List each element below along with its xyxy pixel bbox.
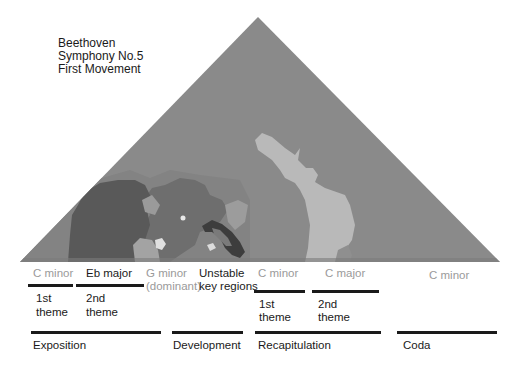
key-label-c-major: C major (325, 266, 365, 280)
section-label-recapitulation: Recapitulation (258, 338, 331, 352)
theme-label-1st-recap: 1st (259, 297, 274, 311)
theme-label-2nd-recap-theme: theme (318, 310, 350, 324)
section-bar-exposition (31, 331, 161, 334)
key-label-eb-major: Eb major (86, 266, 132, 280)
section-bar-development (172, 331, 243, 334)
theme-label-2nd: 2nd (86, 291, 105, 305)
section-bar-recapitulation (255, 331, 381, 334)
section-label-exposition: Exposition (33, 338, 86, 352)
key-label-g-minor: G minor (146, 266, 187, 280)
section-bar-coda (397, 331, 497, 334)
theme-bar-1st-recap (254, 290, 305, 293)
theme-label-1st-theme: theme (36, 305, 68, 319)
highlight-dot (181, 216, 186, 221)
key-label-unstable: Unstable (199, 266, 244, 280)
key-label-key-regions: key regions (199, 279, 258, 293)
theme-label-1st-recap-theme: theme (259, 310, 291, 324)
key-label-c-minor-coda: C minor (429, 268, 469, 282)
theme-label-2nd-recap: 2nd (318, 297, 337, 311)
section-label-coda: Coda (403, 338, 431, 352)
section-label-development: Development (173, 338, 241, 352)
base-speckle (20, 258, 500, 262)
theme-label-2nd-theme: theme (86, 305, 118, 319)
theme-bar-1st-exposition (28, 284, 73, 287)
key-label-dominant: (dominant) (146, 279, 201, 293)
theme-bar-2nd-exposition (76, 284, 144, 287)
key-label-c-minor-recap: C minor (258, 266, 298, 280)
theme-label-1st: 1st (36, 291, 51, 305)
theme-bar-2nd-recap (312, 290, 379, 293)
key-label-c-minor: C minor (33, 266, 73, 280)
